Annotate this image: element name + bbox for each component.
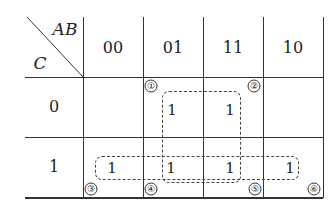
- marker-5: ⑤: [249, 183, 262, 196]
- col-header-10: 10: [283, 40, 303, 56]
- grid-line-h1: [25, 77, 323, 78]
- marker-2: ②: [248, 80, 261, 93]
- row-header-1: 1: [49, 159, 59, 175]
- marker-3: ③: [85, 183, 98, 196]
- marker-6: ⑥: [308, 183, 321, 196]
- marker-1: ①: [145, 80, 158, 93]
- col-header-11: 11: [223, 40, 243, 56]
- marker-4: ④: [145, 183, 158, 196]
- grid-line-v1: [83, 17, 84, 198]
- row-variable-label: C: [33, 55, 46, 72]
- grid-line-v5: [323, 17, 324, 198]
- col-variable-label: AB: [53, 21, 78, 38]
- col-header-01: 01: [163, 40, 183, 56]
- group-bottom-row: [95, 156, 299, 180]
- grid-line-h3: [25, 197, 323, 199]
- karnaugh-map: AB C 00 01 11 10 0 1 1 1 1 1 1 1 ① ② ③ ④…: [0, 0, 329, 203]
- row-header-0: 0: [49, 99, 59, 115]
- col-header-00: 00: [103, 40, 123, 56]
